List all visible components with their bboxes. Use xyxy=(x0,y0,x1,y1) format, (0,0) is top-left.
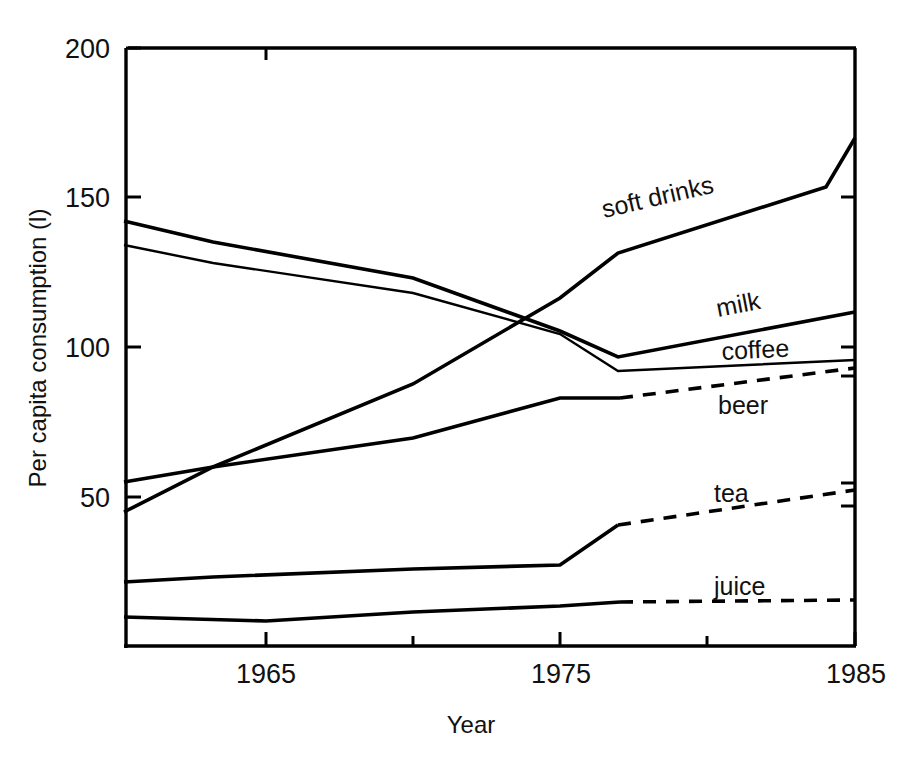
series-label-beer: beer xyxy=(718,391,768,419)
x-tick-label-1965: 1965 xyxy=(236,659,296,689)
chart-figure: 200 150 100 50 1965 1975 1985 Year Per c… xyxy=(0,0,915,767)
series-line-beer-solid xyxy=(124,398,620,482)
series-line-juice-projected xyxy=(620,600,855,602)
series-line-tea-solid xyxy=(124,525,618,582)
y-tick-label-150: 150 xyxy=(65,183,110,213)
y-tick-label-100: 100 xyxy=(65,333,110,363)
series-label-juice: juice xyxy=(713,572,765,600)
series-line-soft-drinks xyxy=(124,138,855,512)
x-axis-title: Year xyxy=(447,711,496,738)
y-axis-title: Per capita consumption (l) xyxy=(24,209,51,488)
x-tick-label-1985: 1985 xyxy=(826,659,886,689)
y-tick-label-200: 200 xyxy=(65,34,110,64)
y-axis-ticks xyxy=(126,48,856,506)
y-tick-label-50: 50 xyxy=(80,483,110,513)
series-line-juice-solid xyxy=(124,602,620,621)
series-label-tea: tea xyxy=(714,479,749,507)
series-label-coffee: coffee xyxy=(721,333,790,365)
series-label-soft-drinks: soft drinks xyxy=(599,170,716,223)
x-tick-label-1975: 1975 xyxy=(531,659,591,689)
series-label-milk: milk xyxy=(714,286,763,322)
line-chart-canvas: 200 150 100 50 1965 1975 1985 Year Per c… xyxy=(0,0,915,767)
